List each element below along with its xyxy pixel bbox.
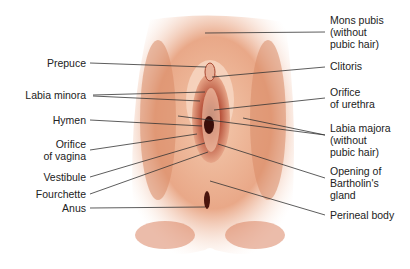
label-bartholin-gland: Opening of Bartholin's gland xyxy=(330,165,381,201)
label-vestibule: Vestibule xyxy=(43,171,86,183)
label-labia-majora: Labia majora (without pubic hair) xyxy=(330,122,391,158)
label-orifice-of-urethra: Orifice of urethra xyxy=(330,86,375,110)
label-fourchette: Fourchette xyxy=(36,188,86,200)
label-mons-pubis: Mons pubis (without pubic hair) xyxy=(330,14,384,50)
anatomy-diagram: Prepuce Labia minora Hymen Orifice of va… xyxy=(0,0,410,269)
label-labia-minora: Labia minora xyxy=(25,89,86,101)
label-hymen: Hymen xyxy=(53,114,86,126)
label-prepuce: Prepuce xyxy=(47,57,86,69)
label-anus: Anus xyxy=(62,202,86,214)
label-clitoris: Clitoris xyxy=(330,60,362,72)
label-orifice-of-vagina: Orifice of vagina xyxy=(43,138,86,162)
label-perineal-body: Perineal body xyxy=(330,209,394,221)
